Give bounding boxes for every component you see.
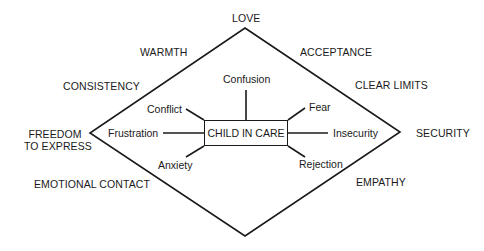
need-security: SECURITY [416, 127, 470, 139]
spoke-rejection [288, 146, 305, 157]
feeling-confusion: Confusion [223, 73, 270, 85]
need-freedom-line1: FREEDOM [24, 128, 86, 140]
center-box: CHILD IN CARE [204, 120, 288, 146]
feeling-conflict: Conflict [147, 103, 182, 115]
feeling-rejection: Rejection [299, 158, 343, 170]
need-clear-limits: CLEAR LIMITS [355, 79, 428, 91]
feeling-insecurity: Insecurity [333, 127, 378, 139]
need-freedom-to-express: FREEDOM TO EXPRESS [24, 128, 86, 152]
feeling-fear: Fear [309, 101, 331, 113]
need-consistency: CONSISTENCY [63, 80, 140, 92]
center-label: CHILD IN CARE [207, 127, 284, 139]
spoke-conflict [186, 109, 204, 120]
spoke-fear [288, 108, 305, 120]
feeling-frustration: Frustration [108, 127, 158, 139]
feeling-anxiety: Anxiety [158, 159, 192, 171]
need-love: LOVE [232, 12, 260, 24]
spoke-anxiety [186, 146, 204, 157]
need-empathy: EMPATHY [356, 176, 406, 188]
need-emotional-contact: EMOTIONAL CONTACT [34, 178, 150, 190]
need-freedom-line2: TO EXPRESS [24, 140, 86, 152]
need-warmth: WARMTH [140, 46, 187, 58]
need-acceptance: ACCEPTANCE [300, 46, 372, 58]
